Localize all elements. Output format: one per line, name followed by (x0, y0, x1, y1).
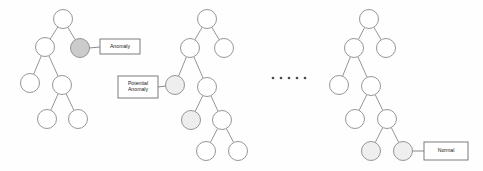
callout-label: Normal (438, 147, 455, 153)
anomaly-node[interactable] (71, 39, 90, 58)
ellipsis-dot (304, 77, 307, 80)
callout-label: Potential (128, 80, 148, 86)
internal-node[interactable] (53, 76, 72, 95)
normal-shaded-node[interactable] (362, 142, 381, 161)
ellipsis-dot (288, 77, 291, 80)
isolation-tree-diagram: AnomalyPotentialAnomalyNormal (0, 0, 483, 171)
tree-edge (50, 27, 58, 39)
root-node[interactable] (360, 10, 379, 29)
tree-edge (212, 27, 219, 40)
potential-anomaly-node[interactable] (166, 76, 185, 95)
leaf-node[interactable] (21, 74, 40, 93)
leaf-node[interactable] (69, 110, 88, 129)
internal-node[interactable] (198, 78, 217, 97)
callout-label: Anomaly (128, 86, 149, 92)
normal-callout[interactable]: Normal (424, 142, 468, 160)
tree-edge (374, 27, 381, 40)
tree-edge (68, 27, 75, 40)
leaf-node[interactable] (215, 39, 234, 58)
tree-edge (195, 27, 202, 40)
internal-node[interactable] (181, 39, 200, 58)
tree-edge (51, 94, 58, 111)
tree-edge (359, 95, 367, 111)
internal-node[interactable] (378, 110, 397, 129)
tree-edge (226, 128, 233, 142)
leaf-node[interactable] (330, 76, 349, 95)
callout-connector (89, 47, 100, 48)
anomaly-callout[interactable]: Anomaly (100, 39, 140, 54)
callouts-layer: AnomalyPotentialAnomalyNormal (100, 39, 468, 160)
callout-connectors-layer (89, 47, 424, 151)
tree-edge (179, 57, 187, 76)
tree-edge (375, 95, 383, 111)
leaf-node[interactable] (197, 142, 216, 161)
tree-edge (210, 128, 217, 142)
ellipsis-dot (280, 77, 283, 80)
root-node[interactable] (54, 10, 73, 29)
leaf-node[interactable] (346, 110, 365, 129)
ellipsis-layer (272, 77, 307, 80)
tree-edge (211, 96, 218, 112)
tree-edge (66, 94, 74, 111)
ellipsis-dot (272, 77, 275, 80)
tree-edge (195, 96, 203, 112)
callout-connector (158, 86, 166, 87)
tree-edge (391, 127, 399, 142)
root-node[interactable] (198, 10, 217, 29)
internal-node[interactable] (213, 111, 232, 130)
callout-label: Anomaly (110, 43, 131, 49)
leaf-node[interactable] (38, 110, 57, 129)
nodes-layer (21, 10, 413, 161)
internal-node[interactable] (36, 38, 55, 57)
tree-edge (49, 56, 58, 77)
tree-edge (358, 27, 364, 39)
leaf-node[interactable] (229, 142, 248, 161)
potential-anomaly-node[interactable] (182, 111, 201, 130)
internal-node[interactable] (362, 77, 381, 96)
normal-shaded-node[interactable] (394, 142, 413, 161)
ellipsis-dot (296, 77, 299, 80)
tree-edge (34, 56, 42, 74)
internal-node[interactable] (345, 39, 364, 58)
tree-edge (375, 127, 383, 142)
leaf-node[interactable] (377, 39, 396, 58)
tree-edge (358, 57, 367, 78)
tree-edge (194, 57, 203, 79)
potential-anomaly-callout[interactable]: PotentialAnomaly (118, 76, 158, 98)
diagram-canvas: AnomalyPotentialAnomalyNormal (0, 0, 483, 171)
tree-edge (343, 57, 351, 76)
